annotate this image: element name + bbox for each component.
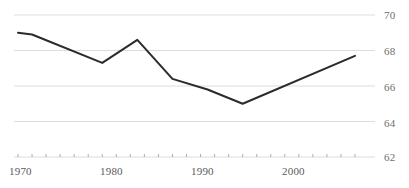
- line-chart: 70 68 66 64 62 1970 1980 1990 2000: [0, 0, 409, 188]
- y-tick-label-68: 68: [384, 46, 395, 57]
- data-line-series-1: [18, 33, 355, 104]
- x-tick-label-1990: 1990: [191, 166, 214, 177]
- y-tick-label-70: 70: [384, 10, 395, 21]
- y-tick-label-62: 62: [384, 152, 395, 163]
- chart-plot-area: [0, 0, 409, 188]
- x-tick-label-1970: 1970: [9, 166, 32, 177]
- y-tick-label-64: 64: [384, 118, 395, 129]
- x-tick-label-1980: 1980: [100, 166, 123, 177]
- y-tick-label-66: 66: [384, 82, 395, 93]
- x-tick-label-2000: 2000: [282, 166, 305, 177]
